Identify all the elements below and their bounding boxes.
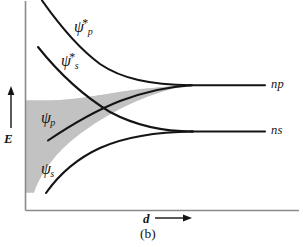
psi-p-star-label: ψ*p [74,17,93,37]
psi-s-star-subscript: s [75,60,79,71]
figure-caption: (b) [140,227,156,241]
figure-panel-b: ψ*p ψ*s ψp ψs np ns E d (b) [0,0,303,247]
up-arrow-icon [8,86,15,128]
x-axis-label: d [143,212,150,225]
psi-p-subscript: p [50,117,55,128]
y-axis-label: E [4,132,13,145]
psi-p-label: ψp [41,110,55,128]
right-arrow-icon [155,215,192,222]
level-label-np: np [271,78,284,91]
psi-s-label: ψs [41,161,54,179]
psi-s-subscript: s [50,168,54,179]
level-label-ns: ns [271,124,283,137]
psi-s-star-label: ψ*s [61,51,79,71]
curve-psi-p-star [42,1,191,86]
psi-p-star-subscript: p [88,26,93,37]
